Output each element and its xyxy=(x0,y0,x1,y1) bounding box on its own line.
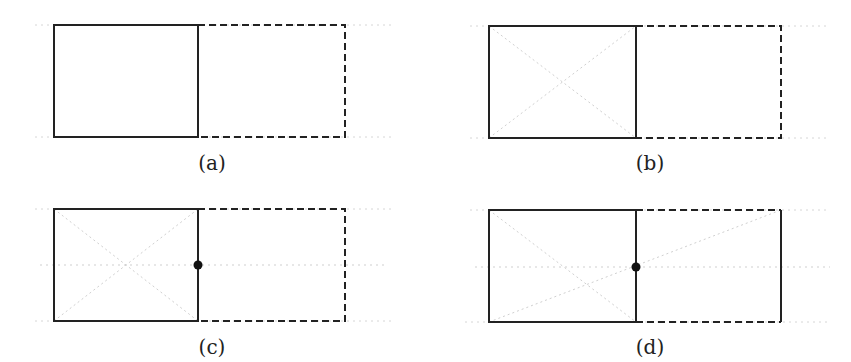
panel-a xyxy=(35,25,392,137)
diagonal-line xyxy=(489,26,636,138)
midpoint-dot xyxy=(194,261,203,270)
midpoint-dot xyxy=(632,263,641,272)
panel-d xyxy=(465,210,830,322)
solid-rectangle xyxy=(54,25,198,137)
caption-c: (c) xyxy=(199,335,226,359)
caption-b: (b) xyxy=(636,151,664,175)
caption-d: (d) xyxy=(636,335,664,359)
solid-rectangle xyxy=(489,26,636,138)
figure xyxy=(0,0,851,362)
dashed-rectangle xyxy=(636,26,781,138)
diagonal-line xyxy=(489,210,636,322)
panel-b xyxy=(470,26,830,138)
panel-c xyxy=(35,209,392,321)
caption-a: (a) xyxy=(198,151,226,175)
diagonal-line xyxy=(489,26,636,138)
dashed-rectangle xyxy=(198,25,345,137)
